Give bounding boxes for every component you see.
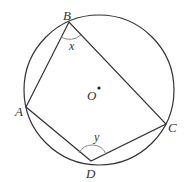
center-point bbox=[97, 86, 100, 89]
label-B: B bbox=[63, 8, 71, 23]
label-D: D bbox=[85, 166, 96, 181]
angle-arc-y bbox=[79, 145, 106, 154]
label-C: C bbox=[168, 120, 177, 135]
angle-label-x: x bbox=[68, 39, 75, 53]
label-O: O bbox=[87, 88, 97, 103]
cyclic-quadrilateral-diagram: B A C D O x y bbox=[0, 0, 190, 182]
angle-label-y: y bbox=[93, 130, 100, 144]
label-A: A bbox=[14, 104, 23, 119]
